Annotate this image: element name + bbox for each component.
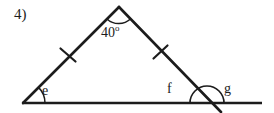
angle-label-e: e xyxy=(42,84,48,98)
angle-label-g: g xyxy=(224,82,231,96)
problem-number-label: 4) xyxy=(14,7,27,22)
triangle-right-side-extended xyxy=(119,7,221,112)
angle-label-f: f xyxy=(167,82,172,96)
angle-g-arc xyxy=(190,86,224,103)
apex-angle-value: 40 xyxy=(101,25,115,40)
triangle-left-side xyxy=(23,7,119,103)
degree-symbol: o xyxy=(115,23,120,33)
apex-angle-label: 40o xyxy=(101,26,120,40)
geometry-figure: 4) 40o e f g xyxy=(0,0,274,113)
